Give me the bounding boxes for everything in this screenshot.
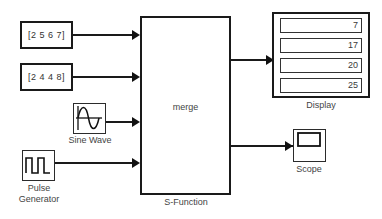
display-row-1: 17 xyxy=(280,38,362,53)
constant-block-2-value: [2 4 4 8] xyxy=(22,72,71,82)
sine-wave-block[interactable] xyxy=(73,103,106,134)
simulink-diagram-canvas: [2 5 6 7] [2 4 4 8] Sine Wave Pulse Gene… xyxy=(0,0,382,219)
pulse-wave-icon xyxy=(23,151,53,179)
pulse-generator-block[interactable] xyxy=(22,150,55,181)
wire-constant1-to-sfunction xyxy=(72,34,134,36)
arrowhead-input-3 xyxy=(132,117,140,127)
arrowhead-input-1 xyxy=(132,30,140,40)
wire-sinewave-to-sfunction xyxy=(105,121,134,123)
sine-wave-icon xyxy=(74,104,104,132)
pulse-generator-caption-line2: Generator xyxy=(3,194,75,205)
s-function-block[interactable]: merge xyxy=(140,16,231,195)
s-function-inner-label: merge xyxy=(142,102,229,112)
display-row-0: 7 xyxy=(280,18,362,33)
pulse-generator-caption-line1: Pulse xyxy=(6,183,72,194)
constant-block-2[interactable]: [2 4 4 8] xyxy=(20,63,73,91)
wire-pulsegenerator-to-sfunction xyxy=(55,162,134,164)
wire-constant2-to-sfunction xyxy=(72,76,134,78)
arrowhead-input-4 xyxy=(132,158,140,168)
display-row-2: 20 xyxy=(280,58,362,73)
constant-block-1-value: [2 5 6 7] xyxy=(22,30,71,40)
wire-sfunction-to-scope xyxy=(231,145,293,147)
arrowhead-output-scope xyxy=(285,141,293,151)
display-row-3: 25 xyxy=(280,78,362,93)
scope-caption: Scope xyxy=(276,164,342,175)
sine-wave-caption: Sine Wave xyxy=(57,135,123,146)
scope-screen-icon xyxy=(294,130,324,160)
s-function-caption: S-Function xyxy=(145,197,227,208)
arrowhead-input-2 xyxy=(132,72,140,82)
display-caption: Display xyxy=(288,100,354,111)
constant-block-1[interactable]: [2 5 6 7] xyxy=(20,21,73,49)
scope-block[interactable] xyxy=(293,129,326,162)
